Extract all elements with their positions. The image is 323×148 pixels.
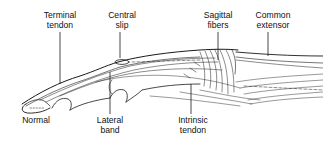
label-line: Common: [250, 10, 296, 20]
label-terminal-tendon: Terminal tendon: [40, 10, 80, 30]
extensor-mechanism-diagram: Terminal tendon Central slip Sagittal fi…: [0, 0, 323, 148]
label-line: Normal: [18, 115, 54, 125]
label-line: fibers: [200, 20, 236, 30]
label-line: tendon: [173, 125, 213, 135]
label-line: tendon: [40, 20, 80, 30]
label-sagittal-fibers: Sagittal fibers: [200, 10, 236, 30]
label-intrinsic-tendon: Intrinsic tendon: [173, 115, 213, 135]
label-line: extensor: [250, 20, 296, 30]
label-normal: Normal: [18, 115, 54, 125]
label-line: band: [92, 125, 128, 135]
label-lateral-band: Lateral band: [92, 115, 128, 135]
label-common-extensor: Common extensor: [250, 10, 296, 30]
label-central-slip: Central slip: [104, 10, 140, 30]
label-line: Sagittal: [200, 10, 236, 20]
label-line: Intrinsic: [173, 115, 213, 125]
label-line: slip: [104, 20, 140, 30]
label-line: Lateral: [92, 115, 128, 125]
label-line: Central: [104, 10, 140, 20]
label-line: Terminal: [40, 10, 80, 20]
